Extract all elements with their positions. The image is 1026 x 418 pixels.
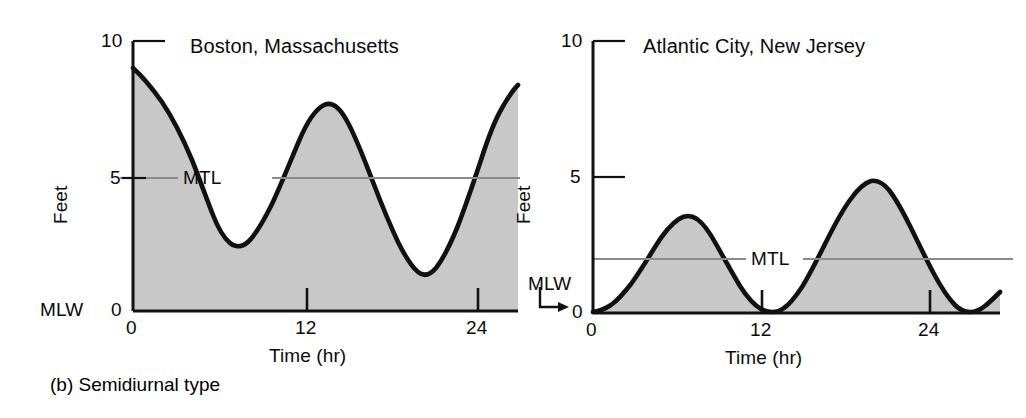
- atlantic-city-xtick-label-0: 0: [586, 320, 597, 339]
- atlantic-city-chart-title: Atlantic City, New Jersey: [643, 36, 865, 56]
- chart-panel-atlantic-city: Atlantic City, New Jersey Feet 10 5 0 ML…: [513, 0, 1026, 418]
- atlantic-city-xtick-label-24: 24: [918, 320, 939, 339]
- boston-ytick-label-10: 10: [101, 31, 122, 50]
- boston-ytick-label-5: 5: [110, 168, 121, 187]
- boston-mtl-label: MTL: [183, 168, 221, 187]
- boston-ytick-label-0: 0: [111, 300, 122, 319]
- atlantic-city-mtl-label: MTL: [751, 249, 789, 268]
- boston-xtick-label-24: 24: [466, 318, 487, 337]
- atlantic-city-ytick-label-0: 0: [572, 302, 583, 321]
- atlantic-city-ytick-label-5: 5: [570, 167, 581, 186]
- figure-caption: (b) Semidiurnal type: [50, 374, 220, 396]
- chart-panel-boston: Boston, Massachusetts Feet 10 5 0 MLW MT…: [0, 0, 513, 418]
- atlantic-city-ytick-label-10: 10: [561, 31, 582, 50]
- atlantic-city-x-axis-label: Time (hr): [725, 348, 802, 367]
- atlantic-city-mlw-label: MLW: [528, 274, 571, 293]
- boston-xtick-label-12: 12: [295, 318, 316, 337]
- atlantic-city-y-axis-label: Feet: [533, 205, 571, 224]
- tide-curves-figure: Boston, Massachusetts Feet 10 5 0 MLW MT…: [0, 0, 1026, 418]
- boston-mlw-label: MLW: [40, 300, 83, 319]
- boston-chart-title: Boston, Massachusetts: [190, 36, 399, 56]
- boston-y-axis-label-text: Feet: [51, 186, 70, 224]
- boston-xtick-label-0: 0: [126, 318, 137, 337]
- boston-y-axis-label: Feet: [70, 205, 108, 224]
- atlantic-city-xtick-label-12: 12: [750, 320, 771, 339]
- atlantic-city-y-axis-label-text: Feet: [514, 186, 533, 224]
- boston-x-axis-label: Time (hr): [269, 346, 346, 365]
